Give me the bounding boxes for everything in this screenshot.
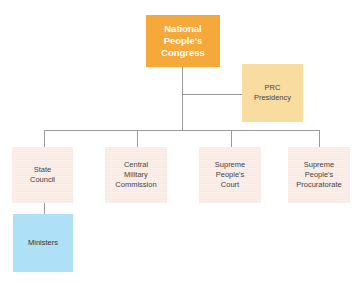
ministers-label: Ministers: [28, 238, 58, 248]
connector-npc-down: [182, 67, 183, 130]
procuratorate-line-3: Procuratorate: [296, 180, 341, 190]
court-line-1: Supreme: [215, 160, 245, 170]
state-council-line-1: State: [30, 165, 55, 175]
cmc-line-3: Commission: [115, 180, 156, 190]
connector-cmc: [137, 130, 138, 147]
connector-to-presidency: [182, 94, 242, 95]
node-central-military-commission: Central Military Commission: [105, 147, 167, 203]
node-supreme-peoples-court: Supreme People's Court: [199, 147, 261, 203]
node-supreme-peoples-procuratorate: Supreme People's Procuratorate: [288, 147, 350, 203]
procuratorate-line-2: People's: [296, 170, 341, 180]
connector-ministers: [44, 203, 45, 214]
cmc-line-1: Central: [115, 160, 156, 170]
npc-line-3: Congress: [161, 47, 205, 59]
connector-bus: [44, 130, 320, 131]
connector-court: [231, 130, 232, 147]
connector-procuratorate: [319, 130, 320, 147]
node-national-peoples-congress: National People's Congress: [146, 15, 220, 67]
state-council-line-2: Council: [30, 175, 55, 185]
node-ministers: Ministers: [13, 214, 73, 272]
node-state-council: State Council: [12, 147, 73, 203]
court-line-3: Court: [215, 180, 245, 190]
presidency-line-1: PRC: [254, 83, 291, 93]
court-line-2: People's: [215, 170, 245, 180]
cmc-line-2: Military: [115, 170, 156, 180]
presidency-line-2: Presidency: [254, 93, 291, 103]
procuratorate-line-1: Supreme: [296, 160, 341, 170]
npc-line-2: People's: [161, 35, 205, 47]
npc-line-1: National: [161, 23, 205, 35]
node-prc-presidency: PRC Presidency: [242, 64, 303, 122]
connector-state-council: [44, 130, 45, 147]
